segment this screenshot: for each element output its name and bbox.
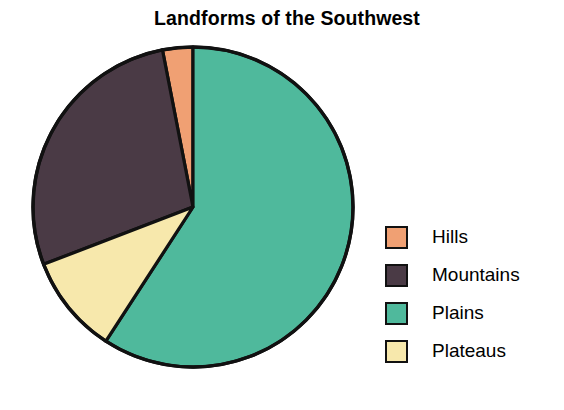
legend-swatch-hills-icon xyxy=(385,226,408,249)
legend-item-plateaus[interactable]: Plateaus xyxy=(385,332,560,370)
legend-swatch-plains-icon xyxy=(385,302,408,325)
legend: Hills Mountains Plains Plateaus xyxy=(385,218,560,370)
legend-label-hills: Hills xyxy=(432,226,468,248)
legend-label-plateaus: Plateaus xyxy=(432,340,506,362)
legend-label-plains: Plains xyxy=(432,302,484,324)
legend-item-mountains[interactable]: Mountains xyxy=(385,256,560,294)
pie-chart-svg xyxy=(0,0,400,410)
pie-chart-figure: Landforms of the Southwest Hills Mountai… xyxy=(0,0,564,410)
legend-item-hills[interactable]: Hills xyxy=(385,218,560,256)
legend-item-plains[interactable]: Plains xyxy=(385,294,560,332)
legend-label-mountains: Mountains xyxy=(432,264,520,286)
legend-swatch-plateaus-icon xyxy=(385,340,408,363)
pie-chart xyxy=(0,0,400,410)
legend-swatch-mountains-icon xyxy=(385,264,408,287)
